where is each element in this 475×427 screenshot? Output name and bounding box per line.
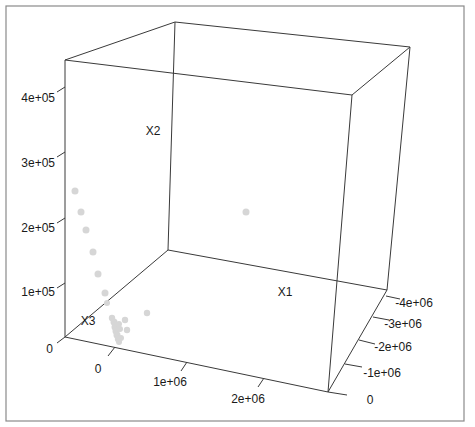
- vtick-label-1e5: 1e+05: [21, 285, 55, 299]
- data-points: [72, 188, 250, 346]
- back-left-vertical-edge: [168, 22, 175, 250]
- scatter3d-plot: 0 1e+05 2e+05 3e+05 4e+05 0 1e+06 2e+06 …: [0, 0, 475, 427]
- data-point: [243, 209, 250, 216]
- box-back-edges: [65, 22, 410, 337]
- data-point: [144, 310, 150, 316]
- front-right-vertical-edge: [328, 95, 352, 392]
- top-right-depth-edge: [352, 47, 410, 95]
- data-point: [116, 321, 122, 327]
- vertical-axis-ticks: [57, 87, 65, 343]
- data-point: [90, 249, 97, 256]
- vtick-label-0: 0: [46, 342, 53, 356]
- back-right-vertical-edge: [387, 47, 410, 290]
- front-bottom-axis: [65, 337, 328, 392]
- data-point: [122, 317, 128, 323]
- htick-label-1e6: 1e+06: [153, 375, 187, 389]
- back-bottom-edge: [168, 250, 387, 290]
- data-point: [83, 227, 90, 234]
- dtick-label-m3e6: -3e+06: [384, 317, 422, 331]
- plot-frame: [6, 6, 464, 421]
- front-top-edge: [65, 60, 352, 95]
- data-point: [72, 188, 79, 195]
- vtick-label-2e5: 2e+05: [21, 221, 55, 235]
- vertical-axis-tick-labels: 0 1e+05 2e+05 3e+05 4e+05: [21, 91, 55, 356]
- data-point: [124, 327, 130, 333]
- data-point: [104, 300, 110, 306]
- data-point: [95, 271, 102, 278]
- horizontal-axis-tick-labels: 0 1e+06 2e+06: [95, 362, 266, 406]
- data-point: [118, 335, 124, 341]
- data-point: [102, 290, 109, 297]
- back-top-edge: [175, 22, 410, 47]
- htick-label-0: 0: [95, 362, 102, 376]
- vtick-label-3e5: 3e+05: [21, 156, 55, 170]
- axis-label-x1: X1: [278, 285, 293, 299]
- data-point: [78, 209, 85, 216]
- dtick-label-m1e6: -1e+06: [363, 366, 401, 380]
- vtick-label-4e5: 4e+05: [21, 91, 55, 105]
- axis-label-x2: X2: [146, 124, 161, 138]
- data-point: [117, 326, 123, 332]
- dtick-label-m2e6: -2e+06: [374, 340, 412, 354]
- top-left-depth-edge: [65, 22, 175, 60]
- dtick-label-0: 0: [367, 393, 374, 407]
- dtick-label-m4e6: -4e+06: [395, 296, 433, 310]
- htick-label-2e6: 2e+06: [231, 392, 265, 406]
- axis-label-x3: X3: [81, 314, 96, 328]
